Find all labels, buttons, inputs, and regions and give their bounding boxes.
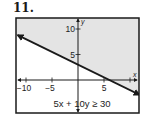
inequality-graph: −10−55510 x y 5x + 10y ≥ 30 bbox=[0, 0, 149, 134]
x-axis-label: x bbox=[132, 71, 137, 78]
y-axis-label: y bbox=[80, 18, 85, 26]
y-tick-label: 10 bbox=[66, 24, 76, 34]
x-tick-label: 5 bbox=[102, 83, 107, 93]
x-tick-label: −10 bbox=[17, 83, 32, 93]
inequality-label: 5x + 10y ≥ 30 bbox=[53, 98, 110, 109]
y-tick-label: 5 bbox=[70, 50, 75, 60]
x-tick-label: −5 bbox=[45, 83, 55, 93]
